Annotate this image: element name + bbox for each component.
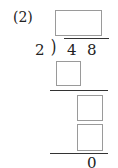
dividend-digit-ones: 8 — [87, 42, 97, 58]
subtraction-line-2 — [50, 153, 108, 154]
quotient-answer-box[interactable] — [55, 10, 102, 36]
step2-product-box[interactable] — [77, 124, 103, 151]
problem-number-label: (2) — [13, 9, 33, 25]
dividend-digit-tens: 4 — [67, 42, 77, 58]
remainder: 0 — [87, 155, 97, 168]
division-overline — [64, 38, 109, 39]
divisor: 2 — [35, 42, 45, 58]
subtraction-line-1 — [50, 90, 108, 91]
step1-product-box[interactable] — [56, 61, 81, 86]
division-bracket-icon: ) — [51, 38, 57, 56]
step2-bringdown-box[interactable] — [77, 95, 103, 121]
